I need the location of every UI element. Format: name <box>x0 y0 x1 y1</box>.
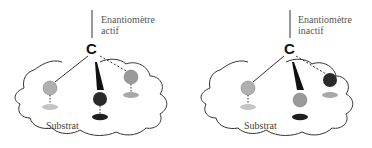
label-line2: actif <box>101 25 155 36</box>
group-right-sphere <box>124 70 138 84</box>
label-line1: Enantiomètre <box>298 14 352 25</box>
group-center-sphere <box>93 92 107 106</box>
group-left-sphere <box>43 81 57 95</box>
panel-active-enantiomer: Enantiomètre actif C Substrat <box>0 0 186 148</box>
site-center <box>92 114 108 120</box>
active-diagram <box>0 0 186 148</box>
carbon-atom: C <box>86 40 97 57</box>
bond-left <box>253 56 284 82</box>
site-right <box>322 92 338 98</box>
substrate-label: Substrat <box>244 120 277 131</box>
site-center <box>292 114 308 120</box>
bond-wedge <box>292 62 304 90</box>
bond-wedge <box>95 62 104 90</box>
bond-left <box>55 56 88 82</box>
label-inactive: Enantiomètre inactif <box>298 14 352 36</box>
group-left-sphere <box>241 81 255 95</box>
site-right <box>123 92 139 98</box>
substrate-label: Substrat <box>46 120 79 131</box>
site-left <box>240 104 256 110</box>
site-left <box>42 104 58 110</box>
substrate-outline <box>15 59 167 135</box>
label-line1: Enantiomètre <box>101 14 155 25</box>
group-center-sphere <box>293 93 307 107</box>
panel-inactive-enantiomer: Enantiomètre inactif C Substrat <box>186 0 372 148</box>
bond-right <box>100 56 128 72</box>
label-line2: inactif <box>298 25 352 36</box>
label-active: Enantiomètre actif <box>101 14 155 36</box>
bond-right <box>296 56 326 74</box>
carbon-atom: C <box>284 40 295 57</box>
group-right-sphere <box>323 73 337 87</box>
